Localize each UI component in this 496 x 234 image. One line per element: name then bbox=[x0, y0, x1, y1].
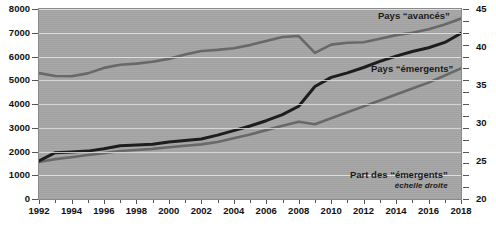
y-tick-right bbox=[463, 21, 469, 22]
x-tick-label: 2000 bbox=[158, 205, 179, 216]
series-line-3 bbox=[39, 33, 461, 161]
x-tick bbox=[380, 200, 381, 203]
x-tick bbox=[250, 200, 251, 203]
gridline bbox=[39, 152, 461, 153]
y-tick-label-right: 30 bbox=[476, 117, 487, 128]
y-tick-left bbox=[32, 104, 38, 105]
gridline bbox=[39, 33, 461, 34]
x-tick bbox=[120, 200, 121, 203]
x-tick bbox=[185, 200, 186, 203]
y-tick-label-right: 40 bbox=[476, 41, 487, 52]
x-tick bbox=[55, 200, 56, 203]
y-tick-right bbox=[463, 175, 469, 176]
x-tick bbox=[88, 200, 89, 203]
y-tick-right bbox=[463, 92, 469, 93]
x-tick bbox=[218, 200, 219, 203]
y-tick-right bbox=[463, 80, 469, 81]
x-tick bbox=[153, 200, 154, 203]
y-tick-left bbox=[32, 199, 38, 200]
x-tick bbox=[234, 200, 235, 204]
y-tick-right bbox=[463, 33, 469, 34]
x-tick bbox=[461, 200, 462, 204]
annotation-emerging: Pays “émergents” bbox=[371, 63, 453, 74]
x-tick-label: 2002 bbox=[191, 205, 212, 216]
annotation-share: Part des “émergents” échelle droite bbox=[350, 169, 448, 191]
y-tick-right bbox=[463, 140, 469, 141]
y-tick-label-left: 1000 bbox=[0, 169, 30, 180]
y-tick-left bbox=[32, 80, 38, 81]
x-tick bbox=[396, 200, 397, 204]
chart-figure: 010002000300040005000600070008000 202530… bbox=[0, 0, 496, 234]
y-tick-label-left: 2000 bbox=[0, 146, 30, 157]
y-tick-left bbox=[32, 9, 38, 10]
x-tick bbox=[169, 200, 170, 204]
y-tick-right bbox=[463, 152, 469, 153]
x-tick-label: 2014 bbox=[386, 205, 407, 216]
x-tick bbox=[283, 200, 284, 203]
y-tick-left bbox=[32, 152, 38, 153]
x-tick-label: 1998 bbox=[126, 205, 147, 216]
x-tick bbox=[201, 200, 202, 204]
annotation-advanced: Pays “avancés” bbox=[378, 10, 450, 21]
x-tick bbox=[39, 200, 40, 204]
y-tick-label-left: 3000 bbox=[0, 122, 30, 133]
annotation-share-sublabel: échelle droite bbox=[350, 180, 448, 191]
gridline bbox=[39, 57, 461, 58]
y-tick-right bbox=[463, 57, 469, 58]
y-tick-label-left: 8000 bbox=[0, 3, 30, 14]
annotation-share-label: Part des “émergents” bbox=[350, 169, 448, 180]
y-tick-label-left: 0 bbox=[0, 193, 30, 204]
y-tick-right bbox=[463, 68, 469, 69]
gridline bbox=[39, 80, 461, 81]
y-tick-label-right: 35 bbox=[476, 79, 487, 90]
x-tick bbox=[364, 200, 365, 204]
x-tick bbox=[412, 200, 413, 203]
x-tick bbox=[299, 200, 300, 204]
x-tick-label: 2012 bbox=[353, 205, 374, 216]
x-tick bbox=[429, 200, 430, 204]
x-tick bbox=[445, 200, 446, 203]
x-tick-label: 2010 bbox=[321, 205, 342, 216]
gridline bbox=[39, 104, 461, 105]
y-tick-left bbox=[32, 57, 38, 58]
x-tick bbox=[347, 200, 348, 203]
y-tick-left bbox=[32, 128, 38, 129]
y-tick-right bbox=[463, 187, 469, 188]
y-tick-label-left: 7000 bbox=[0, 27, 30, 38]
y-tick-label-left: 5000 bbox=[0, 74, 30, 85]
y-tick-label-left: 6000 bbox=[0, 51, 30, 62]
y-tick-right bbox=[463, 128, 469, 129]
x-tick-label: 1992 bbox=[28, 205, 49, 216]
y-tick-right bbox=[463, 163, 469, 164]
y-tick-right bbox=[463, 45, 469, 46]
x-tick bbox=[331, 200, 332, 204]
y-tick-label-right: 25 bbox=[476, 155, 487, 166]
y-tick-right bbox=[463, 104, 469, 105]
x-tick-label: 2016 bbox=[418, 205, 439, 216]
y-tick-label-left: 4000 bbox=[0, 98, 30, 109]
y-tick-label-right: 20 bbox=[476, 193, 487, 204]
x-tick-label: 2004 bbox=[223, 205, 244, 216]
y-tick-left bbox=[32, 33, 38, 34]
x-tick bbox=[266, 200, 267, 204]
y-tick-right bbox=[463, 116, 469, 117]
y-tick-right bbox=[463, 9, 469, 10]
x-tick bbox=[72, 200, 73, 204]
annotation-advanced-label: Pays “avancés” bbox=[378, 10, 450, 21]
gridline bbox=[39, 128, 461, 129]
x-tick-label: 2008 bbox=[288, 205, 309, 216]
x-tick bbox=[315, 200, 316, 203]
x-tick bbox=[136, 200, 137, 204]
x-tick-label: 2006 bbox=[256, 205, 277, 216]
x-tick-label: 1994 bbox=[61, 205, 82, 216]
y-tick-label-right: 45 bbox=[476, 3, 487, 14]
y-tick-right bbox=[463, 199, 469, 200]
annotation-emerging-label: Pays “émergents” bbox=[371, 63, 453, 74]
y-tick-left bbox=[32, 175, 38, 176]
x-tick-label: 1996 bbox=[93, 205, 114, 216]
x-tick bbox=[104, 200, 105, 204]
x-tick-label: 2018 bbox=[450, 205, 471, 216]
